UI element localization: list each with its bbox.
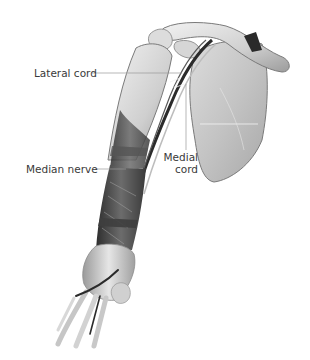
label-medial-cord-line1: Medial <box>162 151 198 163</box>
forearm-muscle <box>96 165 146 250</box>
label-lateral-cord: Lateral cord <box>34 67 97 79</box>
anatomy-illustration <box>0 0 310 360</box>
label-median-nerve: Median nerve <box>26 163 98 175</box>
label-medial-cord-line2: cord <box>162 163 198 175</box>
finger <box>94 298 106 346</box>
wrist-knuckle <box>111 283 130 304</box>
label-medial-cord: Medial cord <box>162 151 198 175</box>
